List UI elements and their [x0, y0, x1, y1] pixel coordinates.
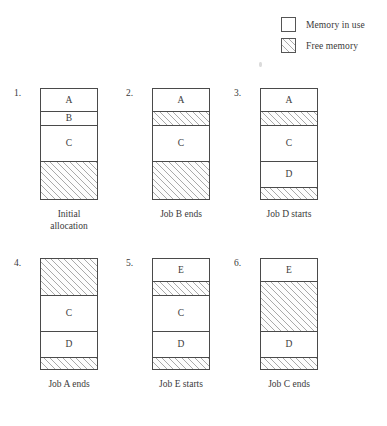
memory-box-3: ACD	[260, 88, 318, 200]
memory-segment-A: A	[41, 89, 97, 112]
legend-item-free-memory: Free memory	[281, 35, 365, 56]
cell-caption: Initial allocation	[40, 208, 98, 232]
cell-index-label: 3.	[234, 88, 241, 98]
free-memory-segment	[153, 112, 209, 127]
memory-segment-D: D	[261, 162, 317, 189]
memory-segment-B: B	[41, 112, 97, 127]
memory-segment-A: A	[261, 89, 317, 112]
memory-segment-C: C	[41, 126, 97, 161]
white-square-swatch-icon	[281, 17, 296, 32]
free-memory-segment	[153, 282, 209, 297]
memory-segment-C: C	[153, 126, 209, 161]
legend: Memory in use Free memory	[281, 14, 365, 56]
memory-segment-C: C	[261, 126, 317, 161]
cell-index-label: 4.	[14, 258, 21, 268]
cell-caption: Job C ends	[260, 378, 318, 390]
memory-segment-D: D	[153, 332, 209, 359]
memory-segment-E: E	[261, 259, 317, 282]
free-memory-segment	[41, 358, 97, 369]
memory-allocation-diagram: 1.ABCInitial allocation2.ACJob B ends3.A…	[0, 84, 387, 424]
memory-box-2: AC	[152, 88, 210, 200]
legend-label-memory-in-use: Memory in use	[306, 20, 365, 30]
free-memory-segment	[261, 112, 317, 127]
memory-segment-A: A	[153, 89, 209, 112]
cell-index-label: 2.	[126, 88, 133, 98]
memory-segment-D: D	[41, 332, 97, 359]
scan-artifact-speck	[259, 62, 262, 67]
hatched-square-swatch-icon	[281, 38, 296, 53]
cell-caption: Job A ends	[40, 378, 98, 390]
free-memory-segment	[261, 282, 317, 332]
memory-box-1: ABC	[40, 88, 98, 200]
cell-caption: Job E starts	[152, 378, 210, 390]
legend-label-free-memory: Free memory	[306, 41, 358, 51]
free-memory-segment	[261, 188, 317, 199]
memory-box-5: ECD	[152, 258, 210, 370]
free-memory-segment	[41, 259, 97, 296]
memory-segment-D: D	[261, 332, 317, 359]
diagram-row: 4.CDJob A ends5.ECDJob E starts6.EDJob C…	[0, 254, 387, 424]
free-memory-segment	[153, 358, 209, 369]
free-memory-segment	[261, 358, 317, 369]
memory-segment-E: E	[153, 259, 209, 282]
free-memory-segment	[153, 162, 209, 199]
cell-index-label: 5.	[126, 258, 133, 268]
diagram-row: 1.ABCInitial allocation2.ACJob B ends3.A…	[0, 84, 387, 254]
cell-caption: Job B ends	[152, 208, 210, 220]
memory-segment-C: C	[41, 296, 97, 331]
cell-index-label: 1.	[14, 88, 21, 98]
memory-box-6: ED	[260, 258, 318, 370]
cell-index-label: 6.	[234, 258, 241, 268]
legend-item-memory-in-use: Memory in use	[281, 14, 365, 35]
memory-box-4: CD	[40, 258, 98, 370]
cell-caption: Job D starts	[260, 208, 318, 220]
free-memory-segment	[41, 162, 97, 199]
memory-segment-C: C	[153, 296, 209, 331]
